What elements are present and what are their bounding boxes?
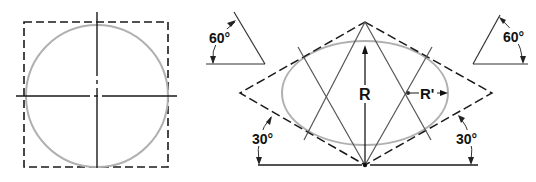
angle-label-30-left: 30° xyxy=(252,131,273,147)
left-60-triangle: 60° xyxy=(206,12,265,64)
right-60-triangle: 60° xyxy=(473,15,530,64)
angle-label-30-right: 30° xyxy=(456,131,477,147)
radius-R-prime-label: R' xyxy=(420,85,434,102)
angle-label-60-left: 60° xyxy=(209,30,230,46)
right-view: R R' 30° 30° xyxy=(240,22,492,167)
angle-label-60-right: 60° xyxy=(503,29,524,45)
isometric-circle-diagram: 60° 60° R R' xyxy=(0,0,536,182)
left-view xyxy=(16,12,177,175)
radius-R-label: R xyxy=(359,86,371,103)
